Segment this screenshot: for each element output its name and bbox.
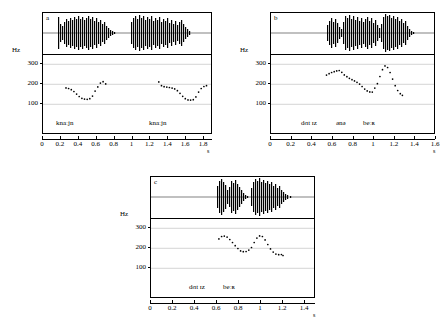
panel-a-xtickmark-2 [78,136,79,139]
panel-c-xtickmark-3 [216,300,217,303]
panel-a-letter: a [46,14,49,22]
panel-a-xtick-2: 0.4 [70,140,86,148]
panel-b-xtickmark-5 [373,136,374,139]
panel-b-letter: b [274,14,278,22]
panel-a-contour-1 [65,81,106,100]
panel-c-letter: c [154,178,157,186]
panel-c-xtickmark-5 [260,300,261,303]
panel-a-ytickmark-100 [40,103,43,104]
panel-a-xtickmark-5 [132,136,133,139]
panel-b-xtick-0: 0 [262,140,278,148]
panel-a-xtickmark-1 [60,136,61,139]
panel-c-xtick-0: 0 [142,304,158,312]
panel-c-xtick-4: 0.8 [230,304,246,312]
panel-c-xtick-5: 1 [252,304,268,312]
panel-a-xtickmark-4 [114,136,115,139]
panel-a-ytickmark-200 [40,83,43,84]
panel-c-xtick-3: 0.6 [208,304,224,312]
panel-b-annotation-2: ənə [336,119,346,127]
panel-b-ytick-300: 300 [244,59,266,67]
panel-a-annotation-1: knaːjn [56,119,74,127]
panel-b-plot [270,54,435,134]
panel-b-plot-svg [271,55,434,133]
panel-c-xtick-6: 1.2 [274,304,290,312]
panel-b-annotation-3: beːʀ [363,119,375,127]
panel-c: c Hz 300 200 10 [110,168,335,334]
panel-a-xtick-4: 0.8 [106,140,122,148]
panel-a-ytick-100: 100 [16,99,38,107]
panel-a-xtickmark-6 [149,136,150,139]
panel-b-xtickmark-8 [435,136,436,139]
panel-b-xtick-6: 1.2 [386,140,402,148]
panel-b-xtickmark-4 [353,136,354,139]
panel-b-xtick-5: 1 [365,140,381,148]
panel-a-xtick-0: 0 [34,140,50,148]
panel-c-xtick-1: 0.2 [164,304,180,312]
panel-c-annotation-2: beːʀ [223,283,235,291]
panel-a-annotation-2: knaːjn [149,119,167,127]
panel-a-xtickmark-9 [203,136,204,139]
panel-b-ytickmark-200 [268,83,271,84]
panel-b-annotation-1: dɑt ɪz [301,119,317,127]
panel-a-xtickmark-3 [96,136,97,139]
panel-c-xtickmark-6 [282,300,283,303]
panel-a-ytick-200: 200 [16,79,38,87]
panel-b-xtickmark-7 [414,136,415,139]
panel-a-x-unit-label: s [207,148,209,154]
panel-c-xtickmark-4 [238,300,239,303]
panel-c-contour [218,235,284,256]
panel-a-xtick-6: 1.2 [141,140,157,148]
panel-a-waveform [42,12,212,54]
panel-a-xtick-1: 0.2 [52,140,68,148]
panel-a-ytick-300: 300 [16,59,38,67]
panel-c-annotation-1: dɑt ɪz [189,283,205,291]
panel-b-waveform [270,12,435,54]
panel-b-ytick-100: 100 [244,99,266,107]
panel-a-xtickmark-7 [167,136,168,139]
panel-c-ytickmark-300 [148,227,151,228]
panel-b: b [222,0,441,160]
panel-b-ytickmark-300 [268,63,271,64]
panel-b-xtick-4: 0.8 [345,140,361,148]
panel-a-xtick-8: 1.6 [177,140,193,148]
panel-b-contour [326,65,404,96]
panel-a-xtickmark-8 [185,136,186,139]
panel-b-x-unit-label: s [433,148,435,154]
panel-b-xtick-8: 1.6 [427,140,441,148]
panel-c-ytick-200: 200 [124,243,146,251]
panel-c-x-unit-label: s [313,312,315,318]
panel-a: a [0,0,215,160]
panel-c-waveform-svg [151,177,314,217]
panel-b-y-axis-label: Hz [240,46,248,54]
panel-a-waveform-svg [43,13,211,53]
panel-c-waveform [150,176,315,218]
panel-b-xtick-2: 0.4 [303,140,319,148]
panel-c-ytick-100: 100 [124,263,146,271]
panel-c-xtick-2: 0.4 [186,304,202,312]
panel-a-xtick-3: 0.6 [88,140,104,148]
panel-b-xtickmark-6 [394,136,395,139]
panel-a-ytickmark-300 [40,63,43,64]
panel-b-xtickmark-3 [332,136,333,139]
panel-c-ytickmark-100 [148,267,151,268]
panel-a-xtick-9: 1.8 [195,140,211,148]
panel-a-xtick-7: 1.4 [159,140,175,148]
panel-b-xtick-1: 0.2 [283,140,299,148]
panel-c-xtick-7: 1.4 [296,304,312,312]
panel-b-ytickmark-100 [268,103,271,104]
panel-b-xtickmark-1 [291,136,292,139]
panel-c-ytick-300: 300 [124,223,146,231]
panel-c-xtickmark-2 [194,300,195,303]
panel-c-ytickmark-200 [148,247,151,248]
panel-a-xtickmark-0 [42,136,43,139]
panel-b-waveform-svg [271,13,434,53]
panel-b-ytick-200: 200 [244,79,266,87]
panel-b-xtickmark-2 [311,136,312,139]
panel-b-xtickmark-0 [270,136,271,139]
panel-c-xtickmark-0 [150,300,151,303]
panel-c-xtickmark-7 [304,300,305,303]
panel-c-xtickmark-1 [172,300,173,303]
panel-c-y-axis-label: Hz [120,210,128,218]
panel-a-y-axis-label: Hz [12,46,20,54]
panel-b-xtick-3: 0.6 [324,140,340,148]
